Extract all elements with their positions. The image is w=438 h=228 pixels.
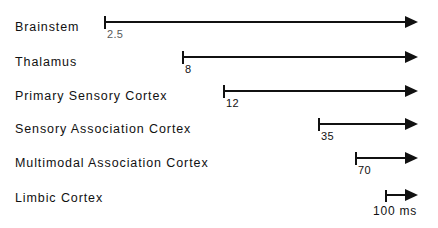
latency-value: 2.5 — [107, 28, 123, 40]
latency-arrow-group: 8 — [182, 51, 418, 81]
scale-tick-mark — [385, 190, 387, 202]
diagram-row: Brainstem2.5 — [0, 16, 438, 50]
region-label: Multimodal Association Cortex — [15, 156, 209, 171]
arrow-head-icon — [405, 85, 418, 97]
scale-line — [387, 194, 406, 196]
diagram-row: Multimodal Association Cortex70 — [0, 152, 438, 186]
arrow-head-icon — [405, 51, 418, 63]
latency-line — [225, 90, 406, 92]
latency-line — [320, 123, 406, 125]
scale-bar-label: 100 ms — [373, 204, 417, 218]
diagram-row: Thalamus8 — [0, 51, 438, 85]
latency-line — [357, 157, 406, 159]
latency-arrow-group: 12 — [223, 85, 418, 115]
latency-arrow-group: 2.5 — [104, 16, 418, 46]
arrow-head-icon — [405, 152, 418, 164]
scale-bar: 100 ms — [385, 190, 418, 222]
region-label: Limbic Cortex — [15, 191, 103, 206]
latency-value: 35 — [321, 130, 334, 142]
latency-value: 8 — [185, 63, 191, 75]
latency-arrow-group: 35 — [318, 118, 418, 148]
region-label: Thalamus — [15, 55, 77, 70]
region-label: Sensory Association Cortex — [15, 122, 191, 137]
latency-arrow-group: 70 — [355, 152, 418, 182]
arrow-head-icon — [405, 118, 418, 130]
latency-line — [106, 21, 406, 23]
diagram-row: Primary Sensory Cortex12 — [0, 85, 438, 119]
latency-diagram: Brainstem2.5Thalamus8Primary Sensory Cor… — [0, 0, 438, 228]
region-label: Primary Sensory Cortex — [15, 89, 167, 104]
region-label: Brainstem — [15, 20, 79, 35]
latency-value: 12 — [226, 97, 239, 109]
latency-line — [184, 56, 406, 58]
latency-value: 70 — [358, 164, 371, 176]
arrow-head-icon — [405, 16, 418, 28]
diagram-row: Sensory Association Cortex35 — [0, 118, 438, 152]
scale-arrow-head-icon — [405, 189, 418, 201]
